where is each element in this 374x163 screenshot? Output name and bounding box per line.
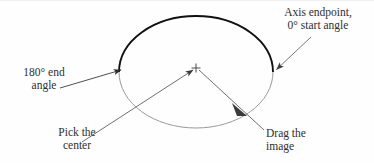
- axis-endpoint-leader-line: [277, 37, 312, 70]
- drag-image-arrowhead-icon: [232, 103, 247, 116]
- callout-end-angle: 180° end angle: [4, 66, 84, 92]
- center-crosshair-icon: [192, 64, 201, 73]
- callout-drag-image: Drag the image: [266, 127, 336, 153]
- ellipse-annotation-figure: Axis endpoint, 0° start angle 180° end a…: [0, 0, 374, 163]
- drag-image-leader-line: [199, 70, 264, 130]
- callout-pick-center: Pick the center: [38, 126, 116, 152]
- ellipse-lower-arc: [119, 72, 273, 128]
- callout-axis-endpoint: Axis endpoint, 0° start angle: [266, 6, 370, 32]
